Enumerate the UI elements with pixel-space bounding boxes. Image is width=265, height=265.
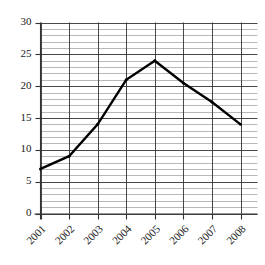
x-axis-tick-label: 2002 bbox=[52, 222, 76, 246]
x-axis-tick-label: 2005 bbox=[138, 222, 162, 246]
x-axis-tick-label: 2003 bbox=[81, 222, 105, 246]
y-axis-tick-label: 30 bbox=[21, 15, 33, 27]
y-axis-tick-labels: 051015202530 bbox=[21, 15, 33, 218]
data-point-marker bbox=[96, 123, 99, 126]
line-chart: 051015202530 200120022003200420052006200… bbox=[0, 0, 265, 265]
x-axis-tick-label: 2001 bbox=[24, 222, 48, 246]
data-point-marker bbox=[39, 167, 42, 170]
data-point-marker bbox=[182, 81, 185, 84]
y-axis-tick-label: 15 bbox=[21, 111, 33, 123]
x-axis-tick-label: 2006 bbox=[167, 222, 191, 246]
data-point-marker bbox=[210, 101, 213, 104]
chart-plot-area: 051015202530 200120022003200420052006200… bbox=[0, 0, 265, 265]
data-point-marker bbox=[125, 78, 128, 81]
x-axis-tick-label: 2007 bbox=[195, 222, 219, 246]
data-series-line bbox=[41, 61, 241, 169]
y-axis-tick-label: 0 bbox=[26, 206, 32, 218]
axis-lines bbox=[35, 23, 258, 220]
x-axis-tick-label: 2004 bbox=[110, 222, 134, 246]
y-axis-tick-marks bbox=[36, 24, 41, 215]
x-axis-tick-labels: 20012002200320042005200620072008 bbox=[24, 222, 248, 246]
x-axis-tick-label: 2008 bbox=[224, 222, 248, 246]
y-axis-tick-label: 5 bbox=[26, 174, 32, 186]
vertical-gridlines bbox=[42, 23, 242, 214]
data-point-marker bbox=[68, 155, 71, 158]
data-point-marker bbox=[239, 123, 242, 126]
y-axis-tick-label: 25 bbox=[21, 47, 33, 59]
series-polyline bbox=[41, 61, 241, 169]
major-gridlines bbox=[41, 24, 258, 215]
y-axis-tick-label: 20 bbox=[21, 79, 33, 91]
data-point-marker bbox=[153, 59, 156, 62]
y-axis-tick-label: 10 bbox=[21, 142, 33, 154]
